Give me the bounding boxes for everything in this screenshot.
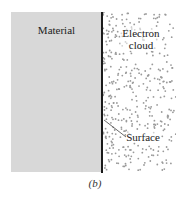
electron-cloud-diagram: Material Electron cloud Surface (b)	[0, 0, 190, 198]
electron-cloud-label-line2: cloud	[120, 39, 162, 51]
electron-cloud-label-line1: Electron	[120, 27, 162, 39]
electron-cloud-label: Electron cloud	[120, 27, 162, 51]
surface-label: Surface	[126, 131, 160, 143]
figure-caption: (b)	[0, 177, 190, 189]
